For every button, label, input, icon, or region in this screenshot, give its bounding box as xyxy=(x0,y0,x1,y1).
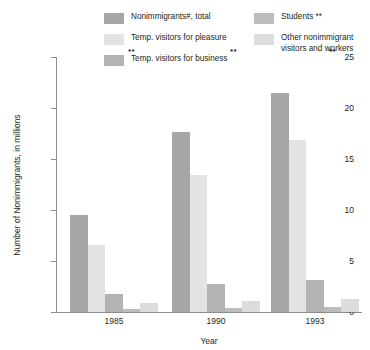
y-axis-tick xyxy=(51,57,56,58)
bar-slot xyxy=(105,57,123,312)
bar-slot xyxy=(289,57,307,312)
bar-slot xyxy=(70,57,88,312)
y-axis-tick xyxy=(51,261,56,262)
bar[interactable] xyxy=(207,284,225,312)
legend-item[interactable]: Students ** xyxy=(254,12,366,24)
bar[interactable]: ** xyxy=(225,308,243,312)
plot-area: 0510152025 **1985**1990**1993 Number of … xyxy=(56,57,362,312)
bar[interactable] xyxy=(289,140,307,312)
bar-group: **1993 xyxy=(271,57,359,312)
bar[interactable] xyxy=(70,215,88,312)
legend-item[interactable]: Temp. visitors for pleasure xyxy=(104,33,254,45)
bar[interactable] xyxy=(242,301,260,312)
bar-group: **1985 xyxy=(70,57,158,312)
x-axis-title: Year xyxy=(56,336,362,346)
legend-item-label: Students ** xyxy=(281,12,322,23)
bar-slot xyxy=(341,57,359,312)
bar[interactable] xyxy=(341,299,359,312)
legend-item-label: Nonimmigrants#, total xyxy=(131,12,211,23)
legend-swatch-pleasure xyxy=(104,34,124,45)
bar-slot xyxy=(271,57,289,312)
x-axis-category-label: 1993 xyxy=(271,316,359,326)
bar-annotation: ** xyxy=(329,47,336,56)
bar-slot: ** xyxy=(123,57,141,312)
y-axis-line xyxy=(56,57,57,312)
legend-swatch-total xyxy=(104,13,124,24)
bar[interactable] xyxy=(172,132,190,312)
bar-group-bars: ** xyxy=(172,57,260,312)
y-axis-tick xyxy=(51,210,56,211)
legend-item-label: Temp. visitors for pleasure xyxy=(131,33,227,44)
bar[interactable] xyxy=(190,175,208,312)
bar-slot: ** xyxy=(324,57,342,312)
y-axis-tick xyxy=(51,108,56,109)
y-axis-tick xyxy=(51,312,56,313)
bar-slot xyxy=(306,57,324,312)
bar-annotation: ** xyxy=(230,47,237,56)
bar-group-bars: ** xyxy=(271,57,359,312)
x-axis-category-label: 1990 xyxy=(172,316,260,326)
bar-slot: ** xyxy=(225,57,243,312)
x-axis-line xyxy=(56,312,362,313)
bar[interactable]: ** xyxy=(324,307,342,312)
bar[interactable] xyxy=(105,294,123,312)
bar[interactable]: ** xyxy=(123,309,141,312)
bar[interactable] xyxy=(271,93,289,312)
bar[interactable] xyxy=(140,303,158,312)
legend-item-label: Other nonimmigrant visitors and workers xyxy=(281,33,353,54)
legend-swatch-students xyxy=(254,13,274,24)
bar-group: **1990 xyxy=(172,57,260,312)
bar-slot xyxy=(207,57,225,312)
bar-chart: Nonimmigrants#, totalTemp. visitors for … xyxy=(0,0,370,350)
y-axis-tick xyxy=(51,159,56,160)
legend-item[interactable]: Nonimmigrants#, total xyxy=(104,12,254,24)
bar-slot xyxy=(172,57,190,312)
bar-slot xyxy=(242,57,260,312)
bar[interactable] xyxy=(88,245,106,312)
y-axis-title: Number of Nonimmigrants, in millions xyxy=(12,114,22,255)
x-axis-category-label: 1985 xyxy=(70,316,158,326)
bar[interactable] xyxy=(306,280,324,312)
bar-slot xyxy=(140,57,158,312)
bar-group-bars: ** xyxy=(70,57,158,312)
bar-slot xyxy=(88,57,106,312)
legend-item[interactable]: Other nonimmigrant visitors and workers xyxy=(254,33,366,54)
legend-swatch-other xyxy=(254,34,274,45)
bar-annotation: ** xyxy=(128,47,135,56)
bar-slot xyxy=(190,57,208,312)
